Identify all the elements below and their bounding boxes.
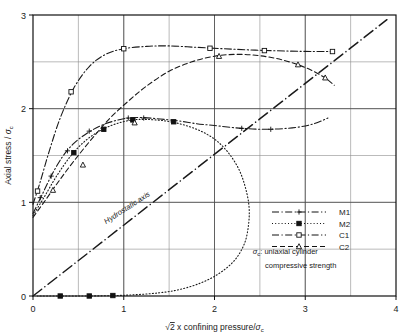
data-point-c1 [35,189,39,193]
y-tick-label: 3 [21,11,26,21]
x-axis-label: √2 x confining pressure/σc [165,322,263,333]
x-tick-label: 4 [393,304,398,314]
tick-label-layer: 012340123 [21,11,399,315]
data-point-m2 [111,293,115,297]
series-line-hydrostatic-axis [33,20,387,296]
x-tick-label: 2 [212,304,217,314]
data-point-c2 [50,187,55,192]
legend-label-m2: M2 [339,220,351,229]
y-axis-label: Axial stress / σc [3,126,14,185]
x-tick-label: 3 [303,304,308,314]
sigma-note-line1: σc: uniaxial cylinder [253,247,319,257]
axis-ticks [29,15,396,300]
series-line-m2 [33,119,249,296]
data-point-m2 [171,120,175,124]
legend-label-c2: C2 [339,243,350,252]
data-point-c1 [69,90,73,94]
series-layer [33,20,387,296]
data-point-m2 [72,150,76,154]
legend-entry-m2: M2 [272,220,351,229]
legend: M1M2C1C2 [272,208,351,252]
chart-figure: 012340123 √2 x confining pressure/σcAxia… [0,0,409,335]
svg-text:Axial stress / σc: Axial stress / σc [3,126,14,185]
annotation-layer: Hydrostatic axisσc: uniaxial cylindercom… [102,189,336,269]
y-tick-label: 0 [21,292,26,302]
legend-entry-m1: M1 [272,208,351,217]
legend-label-m1: M1 [339,208,351,217]
sigma-note-line2: compressive strength [265,261,336,270]
data-point-m2 [58,294,62,298]
y-tick-label: 2 [21,104,26,114]
x-tick-label: 1 [121,304,126,314]
hydrostatic-axis-label: Hydrostatic axis [102,189,152,226]
legend-label-c1: C1 [339,231,350,240]
data-point-c2 [80,162,85,167]
data-point-c1 [208,46,212,50]
data-point-c1 [122,47,126,51]
svg-text:Hydrostatic axis: Hydrostatic axis [102,189,152,226]
svg-text:√2 x confining pressure/σc: √2 x confining pressure/σc [165,322,263,333]
data-point-m2 [87,294,91,298]
data-point-c1 [330,49,334,53]
legend-marker-c1 [297,233,301,237]
x-tick-label: 0 [30,304,35,314]
series-line-m1 [33,117,328,213]
data-point-m2 [102,127,106,131]
chart-canvas: 012340123 √2 x confining pressure/σcAxia… [0,0,409,335]
legend-entry-c1: C1 [272,231,350,240]
data-point-c1 [262,48,266,52]
axis-label-layer: √2 x confining pressure/σcAxial stress /… [3,126,264,333]
y-tick-label: 1 [21,198,26,208]
legend-marker-m2 [297,221,301,225]
